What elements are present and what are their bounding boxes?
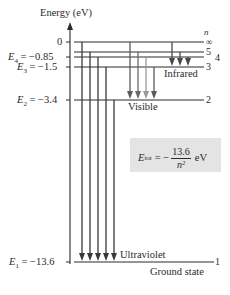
visible-arrowheads [127,91,157,99]
n-label-3: 3 [206,62,211,72]
formula-equals: = − [155,153,169,164]
e1-value: = −13.6 [19,256,54,267]
formula-subscript: tot [144,155,151,162]
formula-fraction: 13.6 n² [171,147,191,170]
energy-axis [66,22,73,264]
e2-value: = −3.4 [27,94,57,105]
ultraviolet-arrows [82,42,114,254]
visible-label: Visible [128,102,158,113]
axis-arrow-icon [67,22,73,30]
energy-label-e1: E1 = −13.6 [9,257,54,270]
ultraviolet-arrowheads [79,253,117,261]
energy-formula: Etot = − 13.6 n² eV [138,147,207,170]
formula-numerator: 13.6 [171,147,191,159]
n-label-4: 4 [215,53,220,63]
ultraviolet-label: Ultraviolet [120,250,166,261]
e3-value: = −1.5 [27,61,57,72]
infrared-arrows [172,42,188,59]
formula-box: Etot = − 13.6 n² eV [130,138,221,172]
infrared-label: Infrared [164,69,198,80]
formula-unit: eV [195,153,207,164]
energy-label-e2: E2 = −3.4 [17,95,57,108]
energy-label-e3: E3 = −1.5 [17,62,57,75]
ground-state-label: Ground state [150,267,204,278]
n-column-label: n [204,28,209,37]
n-label-2: 2 [206,95,211,105]
infrared-arrowheads [169,58,191,66]
energy-label-zero: 0 [57,37,62,48]
n-label-1: 1 [215,257,220,267]
n-label-5: 5 [206,47,211,57]
axis-title: Energy (eV) [40,8,92,19]
formula-denominator: n² [177,159,185,170]
